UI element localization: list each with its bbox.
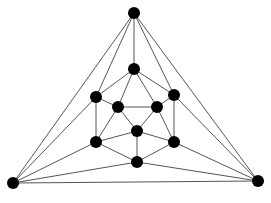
graph-node-L — [90, 91, 102, 103]
graph-node-BR — [252, 175, 264, 187]
graph-node-R — [168, 89, 180, 101]
graph-node-B — [131, 156, 143, 168]
graph-edge-BR-B — [137, 162, 258, 181]
graph-edge-BL-BR — [13, 181, 258, 183]
graph-edge-T-BR — [134, 13, 258, 181]
graph-node-IL — [112, 101, 124, 113]
graph-node-C — [131, 125, 143, 137]
graph-edge-BR-LR — [174, 142, 258, 181]
graph-edge-BR-R — [174, 95, 258, 181]
graph-node-LR — [168, 136, 180, 148]
graph-edge-BL-B — [13, 162, 137, 183]
graph-nodes — [7, 7, 264, 189]
graph-edge-T-BL — [13, 13, 134, 183]
graph-edge-BL-L — [13, 97, 96, 183]
graph-edge-T-L — [96, 13, 134, 97]
graph-edge-BL-LL — [13, 142, 96, 183]
icosahedron-graph-diagram — [0, 0, 271, 203]
graph-node-T — [128, 7, 140, 19]
graph-edge-LL-B — [96, 142, 137, 162]
graph-node-IR — [151, 101, 163, 113]
graph-node-BL — [7, 177, 19, 189]
graph-edge-LR-B — [137, 142, 174, 162]
graph-node-LL — [90, 136, 102, 148]
graph-edge-A-IR — [134, 69, 157, 107]
graph-edge-T-R — [134, 13, 174, 95]
graph-node-A — [128, 63, 140, 75]
